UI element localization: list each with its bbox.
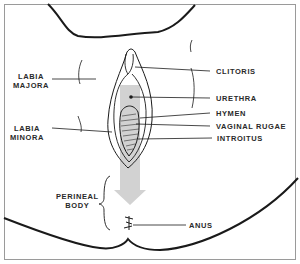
- anatomy-drawing: [0, 0, 300, 264]
- label-clitoris: CLITORIS: [216, 67, 256, 76]
- leader-introitus: [138, 138, 212, 139]
- leader-vaginal-rugae: [136, 124, 210, 126]
- label-hymen: HYMEN: [216, 109, 246, 118]
- label-perineal-body-line2: BODY: [56, 201, 99, 210]
- leader-hymen: [140, 113, 210, 118]
- leader-labia-minora: [52, 128, 112, 132]
- label-labia-minora-line1: LABIA: [10, 124, 44, 133]
- fold-mark-right-upper: [190, 40, 192, 52]
- upper-body-contour: [48, 4, 195, 37]
- label-labia-minora-line2: MINORA: [10, 133, 44, 142]
- label-perineal-body: PERINEAL BODY: [56, 192, 99, 210]
- perineal-brace: [99, 176, 110, 230]
- label-urethra: URETHRA: [216, 94, 257, 103]
- clitoral-hood: [125, 54, 133, 74]
- fold-mark-left-upper: [79, 60, 82, 84]
- label-perineal-body-line1: PERINEAL: [56, 192, 99, 201]
- fold-mark-right: [191, 68, 194, 108]
- label-labia-majora: LABIA MAJORA: [13, 72, 49, 90]
- label-vaginal-rugae: VAGINAL RUGAE: [216, 122, 286, 131]
- leader-urethra: [132, 97, 210, 98]
- label-introitus: INTROITUS: [217, 134, 263, 143]
- label-labia-minora: LABIA MINORA: [10, 124, 44, 142]
- leader-clitoris: [135, 67, 210, 71]
- label-anus: ANUS: [189, 221, 213, 230]
- label-labia-majora-line2: MAJORA: [13, 81, 49, 90]
- lower-body-contour: [4, 178, 298, 250]
- label-labia-majora-line1: LABIA: [13, 72, 49, 81]
- anus-mark: [124, 216, 133, 230]
